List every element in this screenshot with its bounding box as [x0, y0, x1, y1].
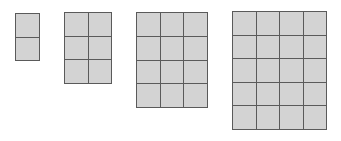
grid-tile	[89, 37, 112, 60]
grid-tile	[304, 36, 327, 59]
grid-tile	[233, 106, 256, 129]
grid-tile	[304, 106, 327, 129]
grid-tile	[65, 13, 88, 36]
grid-tile	[16, 14, 39, 37]
grid-tile	[233, 83, 256, 106]
grid-tile	[257, 83, 280, 106]
grid-1x2	[15, 13, 40, 61]
grid-tile	[304, 83, 327, 106]
grid-tile	[16, 38, 39, 61]
grid-tile	[137, 37, 160, 60]
grid-tile	[184, 37, 207, 60]
grid-tile	[184, 13, 207, 36]
grid-tile	[280, 83, 303, 106]
grid-tile	[233, 59, 256, 82]
grid-tile	[233, 12, 256, 35]
grid-tile	[65, 60, 88, 83]
grid-tile	[257, 12, 280, 35]
grid-tile	[161, 37, 184, 60]
grid-tile	[137, 84, 160, 107]
grid-tile	[137, 13, 160, 36]
grid-tile	[304, 12, 327, 35]
grid-tile	[65, 37, 88, 60]
grid-tile	[280, 12, 303, 35]
grid-tile	[184, 84, 207, 107]
grid-2x3	[64, 12, 112, 84]
grid-4x5	[232, 11, 327, 130]
grid-tile	[257, 36, 280, 59]
grid-tile	[161, 84, 184, 107]
grid-tile	[89, 60, 112, 83]
grid-tile	[89, 13, 112, 36]
grid-tile	[257, 59, 280, 82]
grid-tile	[304, 59, 327, 82]
grid-3x4	[136, 12, 208, 108]
grid-tile	[161, 61, 184, 84]
grid-tile	[257, 106, 280, 129]
grid-tile	[184, 61, 207, 84]
grid-tile	[233, 36, 256, 59]
grid-tile	[280, 106, 303, 129]
grid-tile	[137, 61, 160, 84]
grid-tile	[280, 59, 303, 82]
grid-tile	[161, 13, 184, 36]
grid-tile	[280, 36, 303, 59]
